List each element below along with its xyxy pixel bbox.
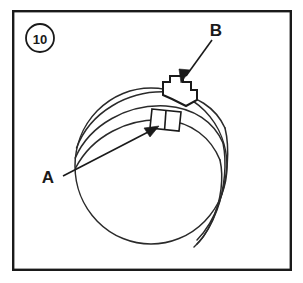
figure-drawing: 10 A B (0, 0, 303, 283)
callout-label-a: A (42, 168, 54, 187)
figure-panel: 10 A B (0, 0, 303, 283)
figure-number-label: 10 (33, 32, 47, 47)
callout-label-b: B (210, 21, 222, 40)
